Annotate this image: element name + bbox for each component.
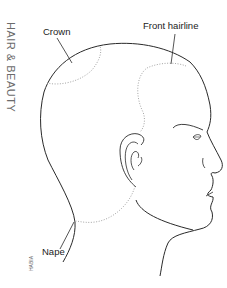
- ear-outer: [120, 134, 144, 187]
- label-crown: Crown: [43, 26, 70, 37]
- label-front-hairline: Front hairline: [143, 20, 198, 31]
- ear-canal: [131, 151, 139, 170]
- label-nape: Nape: [42, 246, 65, 257]
- nape-leader-line: [60, 222, 74, 249]
- brow-line: [173, 124, 203, 130]
- publisher-mark: HABIA: [28, 256, 34, 271]
- face-profile: [160, 105, 222, 276]
- mouth: [206, 192, 213, 196]
- crown-dotted-boundary: [47, 46, 101, 84]
- head-profile-illustration: [0, 0, 227, 288]
- front-hairline-leader-line: [171, 34, 175, 64]
- hairline-dotted-boundary: [138, 63, 186, 132]
- crown-leader-line: [57, 38, 72, 63]
- ear-inner: [125, 142, 138, 180]
- sideburn-dotted-boundary: [76, 186, 135, 222]
- jaw-line: [136, 200, 193, 230]
- head-diagram: HAIR & BEAUTY Crown Front hairlin: [0, 0, 227, 288]
- nostril: [203, 158, 205, 168]
